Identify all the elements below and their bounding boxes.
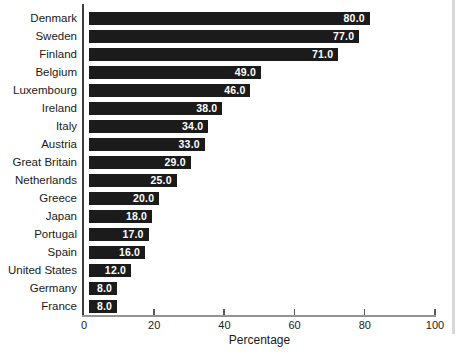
x-axis-line	[82, 315, 436, 317]
x-tick-label: 100	[426, 319, 444, 331]
bar: 80.0	[89, 12, 370, 25]
bar-track: 33.0	[82, 138, 440, 151]
value-label: 18.0	[126, 210, 152, 223]
bar-track: 17.0	[82, 228, 440, 241]
category-label: Italy	[0, 117, 82, 135]
bar: 77.0	[89, 30, 359, 43]
bar-track: 49.0	[82, 66, 440, 79]
bar-track: 8.0	[82, 282, 440, 295]
bar-row: Germany8.0	[0, 279, 440, 297]
x-tick-label: 80	[359, 319, 371, 331]
x-tick-label: 40	[218, 319, 230, 331]
value-label: 29.0	[165, 156, 191, 169]
bar-row: Denmark80.0	[0, 9, 440, 27]
value-label: 17.0	[122, 228, 148, 241]
plot-area: Denmark80.0Sweden77.0Finland71.0Belgium4…	[0, 9, 440, 315]
bar-row: Sweden77.0	[0, 27, 440, 45]
value-label: 33.0	[179, 138, 205, 151]
bar-track: 77.0	[82, 30, 440, 43]
bar-track: 25.0	[82, 174, 440, 187]
bar-track: 38.0	[82, 102, 440, 115]
bar-row: Portugal17.0	[0, 225, 440, 243]
bar: 29.0	[89, 156, 191, 169]
bar-track: 80.0	[82, 12, 440, 25]
bar: 16.0	[89, 246, 145, 259]
bar-chart: Denmark80.0Sweden77.0Finland71.0Belgium4…	[0, 0, 456, 356]
bar: 71.0	[89, 48, 338, 61]
category-label: Belgium	[0, 63, 82, 81]
x-tick-mark	[223, 309, 225, 315]
bar-track: 29.0	[82, 156, 440, 169]
value-label: 34.0	[182, 120, 208, 133]
x-axis-title: Percentage	[84, 333, 435, 347]
x-tick-label: 20	[148, 319, 160, 331]
value-label: 25.0	[151, 174, 177, 187]
bar: 38.0	[89, 102, 222, 115]
page-edge-artifact	[452, 0, 455, 334]
bar: 34.0	[89, 120, 208, 133]
bar-track: 71.0	[82, 48, 440, 61]
category-label: Austria	[0, 135, 82, 153]
bar: 33.0	[89, 138, 205, 151]
bar-row: Ireland38.0	[0, 99, 440, 117]
bar-row: Spain16.0	[0, 243, 440, 261]
x-tick-mark	[153, 309, 155, 315]
category-label: Denmark	[0, 9, 82, 27]
value-label: 12.0	[105, 264, 131, 277]
bar-track: 16.0	[82, 246, 440, 259]
bar: 8.0	[89, 282, 117, 295]
category-label: Portugal	[0, 225, 82, 243]
value-label: 8.0	[97, 282, 117, 295]
bar-track: 46.0	[82, 84, 440, 97]
value-label: 20.0	[133, 192, 159, 205]
bar: 25.0	[89, 174, 177, 187]
y-axis-line	[82, 4, 84, 316]
category-label: Germany	[0, 279, 82, 297]
category-label: Spain	[0, 243, 82, 261]
bar: 17.0	[89, 228, 149, 241]
bar-track: 20.0	[82, 192, 440, 205]
value-label: 46.0	[224, 84, 250, 97]
x-tick-label: 0	[81, 319, 87, 331]
bar: 18.0	[89, 210, 152, 223]
bar-row: United States12.0	[0, 261, 440, 279]
bar: 46.0	[89, 84, 250, 97]
value-label: 16.0	[119, 246, 145, 259]
category-label: Great Britain	[0, 153, 82, 171]
value-label: 71.0	[312, 48, 338, 61]
value-label: 77.0	[333, 30, 359, 43]
value-label: 49.0	[235, 66, 261, 79]
x-tick-mark	[294, 309, 296, 315]
category-label: Greece	[0, 189, 82, 207]
bar-row: Italy34.0	[0, 117, 440, 135]
bar: 12.0	[89, 264, 131, 277]
bar: 20.0	[89, 192, 159, 205]
bar-track: 12.0	[82, 264, 440, 277]
x-tick-label: 60	[288, 319, 300, 331]
category-label: Ireland	[0, 99, 82, 117]
bar-row: Luxembourg46.0	[0, 81, 440, 99]
category-label: Luxembourg	[0, 81, 82, 99]
value-label: 38.0	[196, 102, 222, 115]
bar-row: Finland71.0	[0, 45, 440, 63]
bar-row: Austria33.0	[0, 135, 440, 153]
bar-row: Japan18.0	[0, 207, 440, 225]
x-axis-ticks	[84, 309, 435, 315]
x-tick-mark	[364, 309, 366, 315]
category-label: Japan	[0, 207, 82, 225]
bar-row: Belgium49.0	[0, 63, 440, 81]
category-label: Sweden	[0, 27, 82, 45]
category-label: Finland	[0, 45, 82, 63]
x-tick-mark	[434, 309, 436, 315]
category-label: France	[0, 297, 82, 315]
bar-track: 34.0	[82, 120, 440, 133]
bar-track: 18.0	[82, 210, 440, 223]
bar-row: Greece20.0	[0, 189, 440, 207]
category-label: Netherlands	[0, 171, 82, 189]
category-label: United States	[0, 261, 82, 279]
bar: 49.0	[89, 66, 261, 79]
bar-row: Netherlands25.0	[0, 171, 440, 189]
x-axis-tick-labels: 020406080100	[84, 319, 435, 332]
value-label: 80.0	[344, 12, 370, 25]
bar-row: Great Britain29.0	[0, 153, 440, 171]
